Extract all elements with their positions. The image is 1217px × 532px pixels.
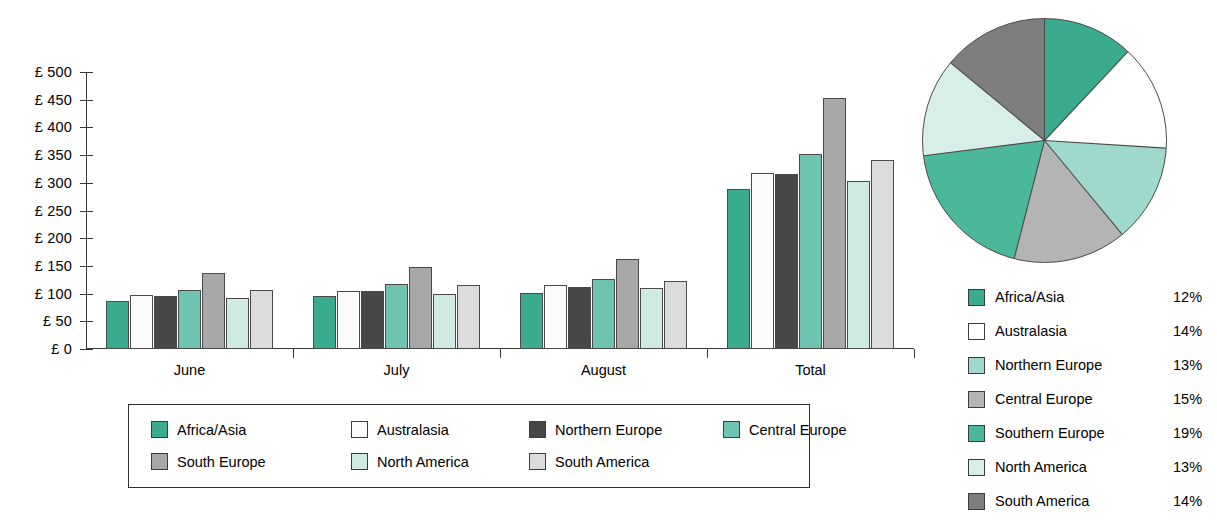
y-axis-tick-label: £ 0 bbox=[51, 341, 72, 357]
y-axis-labels: £ 0£ 50£ 100£ 150£ 200£ 250£ 300£ 350£ 4… bbox=[0, 0, 72, 532]
x-axis-tick bbox=[293, 349, 294, 358]
pie-slice-divider bbox=[1045, 141, 1122, 235]
pie-slice-divider bbox=[924, 141, 1045, 156]
bar bbox=[751, 173, 775, 349]
bar bbox=[520, 293, 544, 350]
y-axis-tick-label: £ 450 bbox=[35, 92, 72, 108]
pie-legend-row: Northern Europe13% bbox=[968, 348, 1208, 382]
bar bbox=[313, 296, 337, 349]
pie-legend-row: North America13% bbox=[968, 450, 1208, 484]
bar bbox=[457, 285, 481, 349]
legend-item: South Europe bbox=[151, 453, 266, 470]
y-axis-tick-label: £ 250 bbox=[35, 203, 72, 219]
bar bbox=[799, 154, 823, 349]
pie-legend-percentage: 14% bbox=[1173, 323, 1202, 339]
x-axis-category-label: August bbox=[581, 362, 626, 378]
y-axis-tick bbox=[80, 100, 93, 101]
pie-chart-separators bbox=[922, 18, 1167, 263]
pie-legend-row: Australasia14% bbox=[968, 314, 1208, 348]
legend-swatch bbox=[529, 421, 546, 438]
pie-legend-row: Central Europe15% bbox=[968, 382, 1208, 416]
bar bbox=[616, 259, 640, 349]
chart-figure: £ 0£ 50£ 100£ 150£ 200£ 250£ 300£ 350£ 4… bbox=[0, 0, 1217, 532]
legend-label: Central Europe bbox=[749, 422, 847, 438]
pie-legend-swatch bbox=[968, 357, 985, 374]
pie-legend-swatch bbox=[968, 391, 985, 408]
y-axis-tick bbox=[80, 211, 93, 212]
bar bbox=[154, 296, 178, 349]
legend-swatch bbox=[351, 421, 368, 438]
y-axis-tick bbox=[80, 266, 93, 267]
bar-group bbox=[313, 72, 481, 349]
legend-swatch bbox=[151, 421, 168, 438]
bar bbox=[727, 189, 751, 349]
pie-legend-label: Africa/Asia bbox=[995, 289, 1064, 305]
bar-group bbox=[106, 72, 274, 349]
x-axis-tick bbox=[707, 349, 708, 358]
y-axis-tick bbox=[80, 72, 93, 73]
legend-item: Northern Europe bbox=[529, 421, 662, 438]
pie-legend-row: South America14% bbox=[968, 484, 1208, 518]
pie-slice-divider bbox=[1045, 141, 1166, 149]
pie-legend-row: Southern Europe19% bbox=[968, 416, 1208, 450]
legend-item: Central Europe bbox=[723, 421, 847, 438]
pie-slice-divider bbox=[951, 63, 1045, 140]
pie-legend-swatch bbox=[968, 493, 985, 510]
bar bbox=[130, 295, 154, 349]
pie-legend-row: Africa/Asia12% bbox=[968, 280, 1208, 314]
legend-swatch bbox=[151, 453, 168, 470]
bar bbox=[592, 279, 616, 349]
pie-chart-legend: Africa/Asia12%Australasia14%Northern Eur… bbox=[968, 280, 1208, 518]
legend-label: Northern Europe bbox=[555, 422, 662, 438]
bar bbox=[544, 285, 568, 349]
y-axis-tick bbox=[80, 321, 93, 322]
bar bbox=[385, 284, 409, 349]
y-axis-tick-label: £ 100 bbox=[35, 286, 72, 302]
bar bbox=[823, 98, 847, 349]
bar-group bbox=[727, 72, 895, 349]
y-axis-tick-label: £ 200 bbox=[35, 230, 72, 246]
legend-label: South Europe bbox=[177, 454, 266, 470]
y-axis-tick bbox=[80, 183, 93, 184]
legend-item: Africa/Asia bbox=[151, 421, 246, 438]
pie-legend-percentage: 15% bbox=[1173, 391, 1202, 407]
pie-slice-divider bbox=[1014, 141, 1044, 259]
bar bbox=[202, 273, 226, 349]
bar bbox=[337, 291, 361, 349]
bar bbox=[640, 288, 664, 349]
pie-legend-percentage: 13% bbox=[1173, 459, 1202, 475]
legend-swatch bbox=[723, 421, 740, 438]
x-axis-tick bbox=[914, 349, 915, 358]
y-axis-tick bbox=[80, 127, 93, 128]
pie-legend-label: Northern Europe bbox=[995, 357, 1102, 373]
y-axis-tick-label: £ 500 bbox=[35, 64, 72, 80]
bar bbox=[664, 281, 688, 349]
y-axis-tick-label: £ 300 bbox=[35, 175, 72, 191]
bar bbox=[409, 267, 433, 349]
pie-legend-percentage: 19% bbox=[1173, 425, 1202, 441]
bar bbox=[847, 181, 871, 349]
plot-area bbox=[86, 72, 914, 349]
pie-legend-percentage: 14% bbox=[1173, 493, 1202, 509]
x-axis-category-label: July bbox=[384, 362, 410, 378]
bar bbox=[775, 174, 799, 349]
legend-item: North America bbox=[351, 453, 469, 470]
pie-slice-divider bbox=[1045, 52, 1128, 141]
y-axis-tick bbox=[80, 349, 93, 350]
y-axis-tick bbox=[80, 155, 93, 156]
y-axis-tick-label: £ 350 bbox=[35, 147, 72, 163]
pie-legend-swatch bbox=[968, 425, 985, 442]
y-axis-tick-label: £ 50 bbox=[43, 313, 72, 329]
y-axis-tick-label: £ 150 bbox=[35, 258, 72, 274]
bar bbox=[178, 290, 202, 349]
bar bbox=[568, 287, 592, 349]
y-axis-tick bbox=[80, 238, 93, 239]
legend-swatch bbox=[529, 453, 546, 470]
bar bbox=[433, 294, 457, 349]
bar-chart-legend: Africa/AsiaAustralasiaNorthern EuropeCen… bbox=[128, 404, 810, 488]
y-axis-tick-label: £ 400 bbox=[35, 119, 72, 135]
legend-swatch bbox=[351, 453, 368, 470]
bar bbox=[106, 301, 130, 349]
legend-label: South America bbox=[555, 454, 649, 470]
pie-legend-label: Australasia bbox=[995, 323, 1067, 339]
